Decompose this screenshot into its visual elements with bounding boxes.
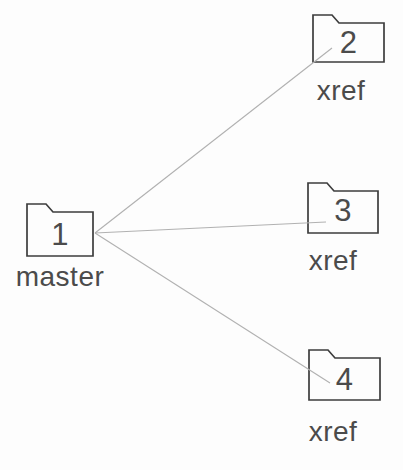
folder-number-xref-3: 3 — [308, 189, 378, 231]
folder-number-master: 1 — [27, 212, 93, 256]
folder-label-xref-2: xref — [281, 76, 401, 107]
folder-label-xref-4: xref — [273, 417, 393, 448]
folder-label-xref-3: xref — [273, 246, 393, 277]
connector-master-xref-3 — [95, 222, 326, 233]
diagram-canvas: 1 2 3 4 master xref xref xref — [0, 0, 403, 470]
folder-label-master: master — [0, 262, 120, 293]
folder-number-xref-4: 4 — [309, 358, 380, 400]
folder-number-xref-2: 2 — [313, 23, 384, 62]
